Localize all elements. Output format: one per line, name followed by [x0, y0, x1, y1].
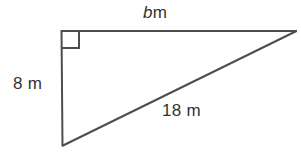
- label-top-side-variable: b: [143, 3, 153, 22]
- geometry-figure: bm 8 m 18 m: [0, 0, 301, 159]
- label-top-side-unit: m: [153, 3, 167, 22]
- label-hypotenuse: 18 m: [162, 101, 201, 120]
- label-left-side: 8 m: [13, 74, 42, 93]
- triangle-hypotenuse: [62, 31, 297, 146]
- right-angle-icon: [62, 32, 79, 49]
- label-top-side: bm: [143, 3, 167, 22]
- label-left-side-value: 8: [13, 74, 23, 93]
- right-triangle-shape: [0, 0, 301, 159]
- label-left-side-unit: m: [28, 74, 42, 93]
- label-hypotenuse-unit: m: [187, 101, 201, 120]
- label-hypotenuse-value: 18: [162, 101, 182, 120]
